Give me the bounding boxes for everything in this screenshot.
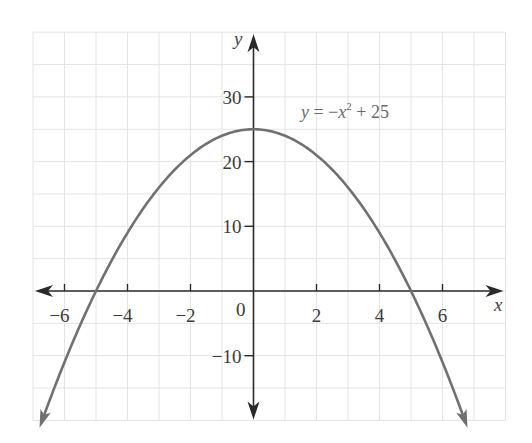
y-axis-label: y	[232, 28, 243, 49]
x-tick-label: −6	[49, 305, 69, 326]
y-tick-label: 30	[223, 87, 242, 108]
x-tick-label: 2	[312, 305, 322, 326]
x-tick-label: 6	[438, 305, 448, 326]
x-tick-label: −2	[175, 305, 195, 326]
grid	[33, 32, 506, 420]
parabola-chart: −6−4−2246302010−10 y = −x2 + 25 x y 0	[0, 0, 532, 443]
curve-right-arrow-icon	[456, 409, 472, 430]
curve-left-arrow-icon	[34, 409, 50, 430]
equation-label: y = −x2 + 25	[299, 100, 389, 122]
arrowheads	[34, 34, 503, 429]
x-tick-label: −4	[112, 305, 133, 326]
origin-label: 0	[236, 299, 246, 320]
y-tick-label: 10	[223, 216, 242, 237]
x-axis-label: x	[493, 294, 503, 315]
x-tick-label: 4	[375, 305, 385, 326]
y-tick-label: 20	[223, 152, 242, 173]
y-tick-label: −10	[212, 346, 242, 367]
